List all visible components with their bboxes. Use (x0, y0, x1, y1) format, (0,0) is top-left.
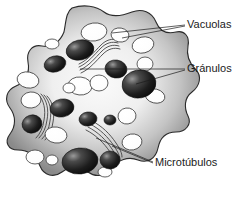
label-vacuolas: Vacuolas (187, 18, 232, 30)
granule (104, 115, 116, 125)
vacuole (46, 155, 58, 165)
vacuole (90, 75, 108, 91)
vacuole (26, 150, 44, 164)
vacuole (45, 39, 59, 49)
cell-diagram: Vacuolas Gránulos Microtúbulos (0, 0, 246, 209)
label-microtubulos: Microtúbulos (155, 156, 218, 168)
granule (100, 151, 120, 169)
vacuole (63, 83, 75, 93)
diagram-page: Vacuolas Gránulos Microtúbulos (0, 0, 246, 209)
label-granulos: Gránulos (187, 62, 232, 74)
